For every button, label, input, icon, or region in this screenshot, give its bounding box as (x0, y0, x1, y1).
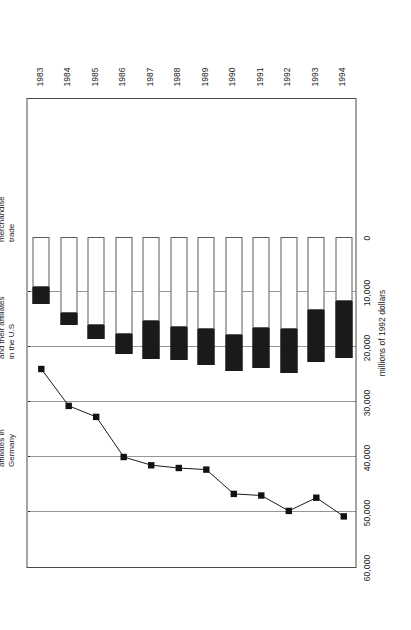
data-point-marker-1991 (258, 492, 264, 498)
value-tick-20000: 20,000 (361, 326, 371, 370)
chart-area: IFT between U.S parents and their affili… (0, 0, 411, 630)
value-tick-10000: 10,000 (361, 271, 371, 315)
value-tick-40000: 40,000 (361, 436, 371, 480)
legend-label-german-parents: IFT between German parents and their aff… (0, 267, 15, 359)
legend-label-us-parents: IFT between U.S parents and their affili… (0, 381, 15, 467)
category-tick-1992: 1992 (281, 62, 291, 92)
category-tick-1991: 1991 (254, 62, 264, 92)
data-point-marker-1990 (230, 491, 236, 497)
category-tick-1989: 1989 (199, 62, 209, 92)
category-tick-1987: 1987 (144, 62, 154, 92)
rotated-chart-container: IFT between U.S parents and their affili… (0, 0, 411, 630)
data-point-marker-1992 (285, 508, 291, 514)
data-point-marker-1989 (203, 466, 209, 472)
plot-frame (26, 98, 356, 568)
line-series (27, 97, 357, 567)
category-tick-1994: 1994 (336, 62, 346, 92)
data-point-marker-1987 (148, 462, 154, 468)
value-axis-title: millions of 1992 dollars (376, 285, 386, 381)
data-point-marker-1988 (175, 465, 181, 471)
category-tick-1985: 1985 (89, 62, 99, 92)
data-point-marker-1993 (313, 495, 319, 501)
category-tick-1986: 1986 (116, 62, 126, 92)
data-point-marker-1985 (93, 414, 99, 420)
value-tick-30000: 30,000 (361, 381, 371, 425)
category-tick-1990: 1990 (226, 62, 236, 92)
category-tick-1984: 1984 (61, 62, 71, 92)
category-tick-1983: 1983 (34, 62, 44, 92)
value-tick-50000: 50,000 (361, 491, 371, 535)
data-point-marker-1994 (340, 513, 346, 519)
legend-label-total-trade: Total U.S German merchandise trade (0, 162, 15, 242)
data-point-marker-1984 (65, 403, 71, 409)
category-tick-1988: 1988 (171, 62, 181, 92)
figure-page: IFT between U.S parents and their affili… (0, 0, 411, 630)
total-trade-line (41, 369, 344, 516)
category-tick-1993: 1993 (309, 62, 319, 92)
data-point-marker-1983 (38, 366, 44, 372)
chart-legend: IFT between U.S parents and their affili… (0, 60, 4, 480)
data-point-marker-1986 (120, 454, 126, 460)
value-tick-60000: 60,000 (361, 546, 371, 590)
value-tick-0: 0 (361, 216, 371, 260)
